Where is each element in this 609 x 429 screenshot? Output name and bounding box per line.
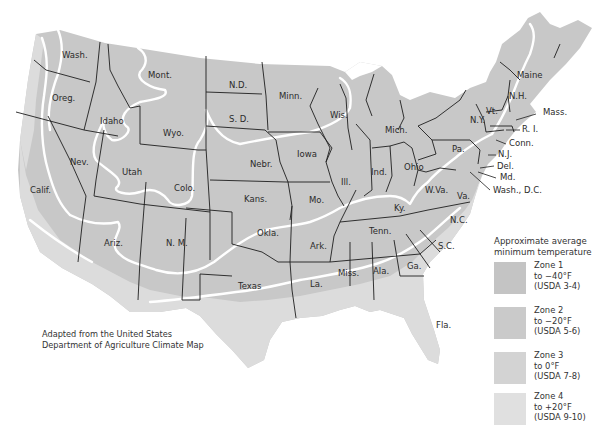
state-label: Ky. [394,203,405,213]
legend-text: Zone 1 to −40°F (USDA 3-4) [534,260,580,292]
state-label: Mont. [148,70,172,80]
state-label: Vt. [486,106,498,116]
state-label: Ga. [407,261,422,271]
legend-item-zone3: Zone 3 to 0°F (USDA 7-8) [494,352,609,392]
legend-title-line-1: Approximate average [494,236,592,247]
legend-item-zone1: Zone 1 to −40°F (USDA 3-4) [494,262,609,302]
legend-swatch [494,307,526,339]
legend-zone: Zone 3 [534,350,580,361]
legend-item-zone4: Zone 4 to +20°F (USDA 9-10) [494,393,609,429]
credit-line-1: Adapted from the United States [42,329,204,340]
state-label: Texas [237,281,262,291]
legend-title-line-2: minimum temperature [494,247,592,258]
callout-label: Mass. [543,107,567,117]
legend-zone: Zone 4 [534,391,586,402]
legend-swatch [494,262,526,294]
legend-temp: to −40°F [534,271,580,282]
callout-label: Del. [497,161,514,171]
legend-temp: to 0°F [534,361,580,372]
state-label: N.D. [229,80,247,90]
state-label: Ariz. [104,238,123,248]
state-label: Wyo. [163,128,184,138]
state-label: Ind. [371,167,387,177]
state-label: Nev. [70,157,89,167]
legend-zone: Zone 2 [534,305,580,316]
state-label: Miss. [338,268,359,278]
state-label: Minn. [279,91,302,101]
state-label: Mich. [385,125,407,135]
legend-usda: (USDA 3-4) [534,281,580,292]
state-label: Pa. [452,144,465,154]
callout-label: Wash., D.C. [493,185,542,195]
state-label: W.Va. [425,185,448,195]
callout-label: Conn. [509,138,534,148]
state-label: Ill. [341,177,351,187]
legend-text: Zone 3 to 0°F (USDA 7-8) [534,350,580,382]
state-label: Idaho [100,116,124,126]
state-label: Ohio [404,162,424,172]
state-label: Ark. [310,241,327,251]
state-label: Wis. [330,110,348,120]
state-label: Mo. [309,195,324,205]
legend-usda: (USDA 5-6) [534,326,580,337]
legend-usda: (USDA 7-8) [534,371,580,382]
callout-label: R. I. [522,124,538,134]
state-label: Oreg. [52,93,75,103]
credit-line-2: Department of Agriculture Climate Map [42,340,204,351]
state-label: Calif. [30,185,51,195]
legend-title: Approximate average minimum temperature [494,236,592,257]
state-label: S.C. [438,241,455,251]
state-label: Kans. [244,194,267,204]
state-label: Ala. [373,266,389,276]
state-label: Maine [517,70,543,80]
legend-zone: Zone 1 [534,260,580,271]
state-label: La. [310,279,323,289]
legend-swatch [494,352,526,384]
state-label: Iowa [297,149,317,159]
state-label: N.Y. [470,115,485,125]
state-label: Va. [457,191,470,201]
legend-temp: to +20°F [534,402,586,413]
state-label: N.C. [450,215,468,225]
legend-text: Zone 2 to −20°F (USDA 5-6) [534,305,580,337]
state-label: Utah [122,167,142,177]
callout-label: Md. [500,172,515,182]
state-label: Nebr. [250,159,272,169]
state-label: Colo. [174,183,195,193]
legend-item-zone2: Zone 2 to −20°F (USDA 5-6) [494,307,609,347]
state-label: Tenn. [368,226,391,236]
callout-label: N.J. [498,149,512,159]
state-label: N. M. [166,238,188,248]
legend-usda: (USDA 9-10) [534,412,586,423]
state-label: Fla. [436,320,451,330]
legend-temp: to −20°F [534,316,580,327]
state-label: Wash. [62,50,88,60]
map-credit: Adapted from the United States Departmen… [42,329,204,350]
state-label: Okla. [257,228,279,238]
state-label: S. D. [229,114,249,124]
legend-swatch [494,393,526,425]
legend-text: Zone 4 to +20°F (USDA 9-10) [534,391,586,423]
state-label: N.H. [509,91,527,101]
